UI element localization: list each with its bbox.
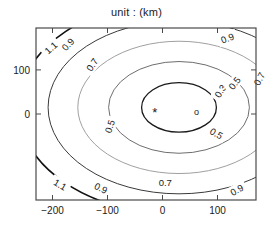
axis-ticks-group (36, 28, 256, 200)
asterisk-marker: * (152, 105, 157, 120)
x-tick-label: 0 (160, 205, 166, 216)
contour-label: 0.5 (205, 123, 228, 143)
contour-label: 0.7 (155, 176, 175, 188)
x-tick-label: −200 (41, 205, 64, 216)
markers-group: *o (152, 105, 199, 120)
contour-label-text: 0.7 (159, 177, 172, 188)
contour-label: 1.1 (39, 37, 62, 59)
x-tick-label: 100 (209, 205, 226, 216)
contour-label: 0.9 (89, 178, 112, 198)
plot-frame (36, 28, 256, 200)
y-tick-label: 100 (2, 64, 30, 75)
contour-label: 0.9 (216, 29, 239, 48)
contour-label: 0.7 (81, 53, 102, 76)
axes-group (36, 28, 256, 200)
contour-line-0-9 (48, 21, 273, 194)
circle-marker: o (194, 107, 199, 117)
contour-label: 0.7 (249, 67, 269, 90)
y-tick-label: 0 (2, 109, 30, 120)
x-tick-label: −100 (96, 205, 119, 216)
contour-label: 0.9 (225, 180, 248, 200)
contour-label: 1.1 (49, 174, 72, 194)
contour-label: 0.5 (101, 115, 119, 138)
contour-figure: unit : (km) 0.30.50.50.50.70.70.70.90.90… (0, 0, 273, 227)
contour-line-0-5 (109, 62, 250, 154)
contour-plot-canvas: 0.30.50.50.50.70.70.70.90.90.90.91.11.1 … (0, 0, 273, 227)
